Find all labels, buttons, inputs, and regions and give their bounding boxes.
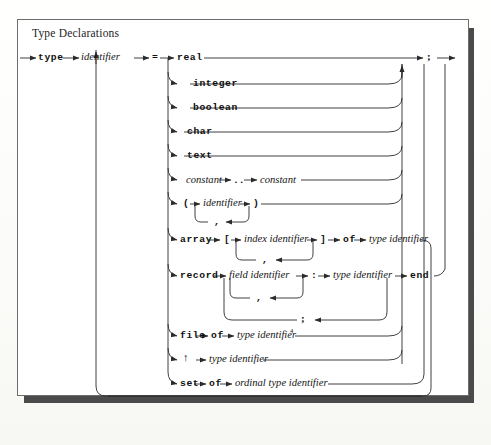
diagram-card: Type Declarations bbox=[17, 19, 469, 396]
token-of-set: of bbox=[209, 379, 222, 389]
token-array: array bbox=[180, 235, 212, 245]
token-paren-close: ) bbox=[253, 199, 259, 209]
token-type-identifier-record: type identifier bbox=[333, 270, 392, 281]
token-file: file bbox=[180, 331, 206, 341]
token-semicolon-record: ; bbox=[301, 313, 305, 324]
token-index-identifier: index identifier bbox=[244, 234, 308, 245]
token-type-identifier-pointer: type identifier bbox=[209, 354, 268, 365]
token-char: char bbox=[187, 127, 213, 137]
token-range-dots: .. bbox=[233, 176, 245, 186]
token-bracket-open: [ bbox=[224, 235, 230, 245]
token-paren-open: ( bbox=[183, 199, 189, 209]
footnote-marker-4: 4 bbox=[290, 328, 293, 335]
token-constant-lower: constant bbox=[186, 175, 222, 186]
token-boolean: boolean bbox=[193, 103, 238, 113]
token-ordinal-type-identifier: ordinal type identifier bbox=[235, 378, 328, 389]
token-comma-record: , bbox=[256, 293, 262, 303]
token-integer: integer bbox=[193, 79, 238, 89]
token-up-arrow: ↑ bbox=[183, 352, 189, 363]
token-enum-identifier: identifier bbox=[203, 198, 242, 209]
token-comma-array: , bbox=[262, 255, 268, 265]
token-field-identifier: field identifier bbox=[229, 270, 289, 281]
figure-page: Type Declarations bbox=[0, 0, 491, 445]
token-record: record bbox=[180, 271, 218, 281]
token-type-keyword: type bbox=[38, 53, 64, 63]
token-bracket-close: ] bbox=[320, 235, 326, 245]
token-end: end bbox=[410, 271, 429, 281]
token-of-file: of bbox=[211, 331, 224, 341]
token-set: set bbox=[180, 379, 199, 389]
token-equals: = bbox=[152, 53, 158, 63]
token-identifier: identifier bbox=[81, 52, 120, 63]
token-constant-upper: constant bbox=[260, 175, 296, 186]
token-colon: : bbox=[311, 271, 317, 281]
token-semicolon: ; bbox=[427, 51, 431, 62]
token-comma-enum: , bbox=[214, 217, 220, 227]
token-of-array: of bbox=[343, 235, 356, 245]
token-type-identifier-file: type identifier bbox=[237, 330, 296, 341]
token-real: real bbox=[177, 53, 203, 63]
token-type-identifier-array: type identifier bbox=[369, 234, 428, 245]
token-text: text bbox=[187, 151, 213, 161]
